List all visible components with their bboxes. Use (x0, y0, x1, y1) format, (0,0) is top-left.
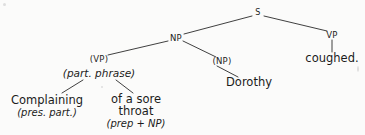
gloss-prep-np: (prep + NP) (106, 119, 165, 130)
node-part-phrase: (part. phrase) (63, 68, 135, 79)
node-vp-paren: (VP) (90, 55, 108, 64)
leaf-complaining: Complaining (11, 94, 83, 106)
edge-np-to-np-paren (183, 41, 216, 57)
node-s: S (255, 9, 260, 17)
node-np-top: NP (170, 34, 182, 43)
scan-speck-right (357, 66, 359, 72)
edge-part-phrase-to-complaining (62, 80, 83, 93)
edge-s-to-vp (264, 16, 327, 31)
gloss-pres-part: (pres. part.) (17, 108, 77, 119)
edge-s-to-np (184, 16, 252, 34)
node-np-paren: (NP) (213, 57, 232, 66)
node-vp-right: VP (326, 31, 337, 40)
scan-speck-center (101, 86, 103, 88)
edge-np-to-vp-paren (108, 41, 168, 55)
syntax-tree-figure: S NP VP (VP) (part. phrase) (NP) Dorothy… (0, 0, 365, 135)
scan-speck-top-left (3, 3, 6, 6)
leaf-coughed: coughed. (305, 52, 358, 64)
leaf-throat: throat (119, 105, 154, 117)
leaf-dorothy: Dorothy (226, 76, 272, 88)
